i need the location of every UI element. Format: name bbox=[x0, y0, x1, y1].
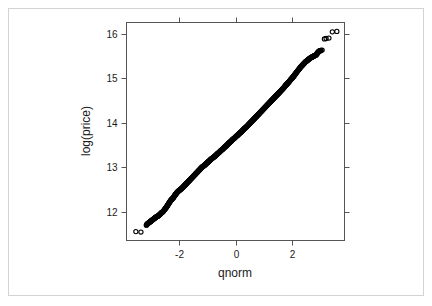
data-point bbox=[139, 230, 143, 234]
x-axis-title: qnorm bbox=[218, 266, 252, 280]
y-tick-label-1: 13 bbox=[106, 162, 118, 173]
plot-area: -202 1213141516 qnorm log(price) bbox=[0, 0, 432, 306]
data-point bbox=[327, 36, 331, 40]
y-tick-label-4: 16 bbox=[106, 29, 118, 40]
y-axis-title: log(price) bbox=[79, 106, 93, 156]
figure-container: -202 1213141516 qnorm log(price) bbox=[0, 0, 432, 306]
data-point bbox=[335, 29, 339, 33]
y-tick-label-0: 12 bbox=[106, 207, 118, 218]
y-axis-tick-labels: 1213141516 bbox=[106, 29, 118, 218]
y-axis-ticks-right bbox=[345, 35, 350, 213]
x-axis-ticks bbox=[180, 241, 293, 246]
x-axis-ticks-top bbox=[180, 18, 293, 23]
x-axis-tick-labels: -202 bbox=[175, 249, 296, 260]
data-point bbox=[134, 230, 138, 234]
data-point bbox=[330, 30, 334, 34]
qq-plot-svg: -202 1213141516 qnorm log(price) bbox=[0, 0, 432, 306]
x-tick-label-2: 2 bbox=[290, 249, 296, 260]
scatter-points bbox=[134, 29, 339, 234]
y-tick-label-3: 15 bbox=[106, 73, 118, 84]
y-tick-label-2: 14 bbox=[106, 118, 118, 129]
x-tick-label-0: -2 bbox=[175, 249, 184, 260]
x-tick-label-1: 0 bbox=[234, 249, 240, 260]
y-axis-ticks bbox=[122, 35, 127, 213]
